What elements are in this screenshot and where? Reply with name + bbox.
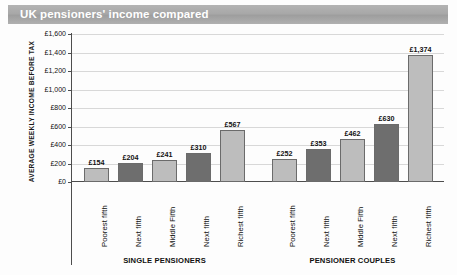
bar <box>374 124 399 182</box>
gridline <box>72 108 444 109</box>
bar-value-label: £630 <box>368 114 405 123</box>
y-axis-tick-label: £200 <box>50 160 66 167</box>
x-axis-category-label: Next fifth <box>134 216 143 247</box>
y-axis-tick-label: £400 <box>50 141 66 148</box>
bar <box>152 160 177 182</box>
x-axis-category-label: Middle Fifth <box>168 207 177 247</box>
bar-value-label: £1,374 <box>402 45 439 54</box>
y-axis-tick-label: £1,400 <box>45 49 66 56</box>
bar <box>306 149 331 182</box>
x-axis-category-label: Richest fifth <box>236 206 245 247</box>
bar-value-label: £462 <box>334 129 371 138</box>
gridline <box>72 34 444 35</box>
gridline <box>72 90 444 91</box>
y-axis-tick-label: £0 <box>58 178 66 185</box>
x-axis-category-label: Richest fifth <box>424 206 433 247</box>
bar-value-label: £204 <box>112 153 149 162</box>
x-axis-category-label: Poorest fifth <box>100 205 109 247</box>
y-axis-tick-label: £600 <box>50 123 66 130</box>
x-axis-category-label: Next fifth <box>390 216 399 247</box>
plot-area: £154£204£241£310£567£252£353£462£630£1,3… <box>72 34 444 182</box>
chart-figure: UK pensioners' income compared AVERAGE W… <box>0 0 457 275</box>
bar <box>272 159 297 182</box>
x-axis-group-label: PENSIONER COUPLES <box>283 256 423 265</box>
bar-value-label: £567 <box>214 120 251 129</box>
bar <box>84 168 109 182</box>
y-axis-title: AVERAGE WEEKLY INCOME BEFORE TAX <box>28 27 35 197</box>
bar <box>220 130 245 182</box>
bar <box>340 139 365 182</box>
bar-value-label: £154 <box>78 158 115 167</box>
bar-value-label: £310 <box>180 143 217 152</box>
bar <box>408 55 433 182</box>
x-axis-category-label: Middle Fifth <box>356 207 365 247</box>
bar <box>186 153 211 182</box>
y-axis-tick-label: £1,200 <box>45 67 66 74</box>
bar-value-label: £241 <box>146 150 183 159</box>
x-axis-category-label: Next fifth <box>202 216 211 247</box>
title-banner: UK pensioners' income compared <box>8 5 448 24</box>
x-axis-category-label: Poorest fifth <box>288 205 297 247</box>
gridline <box>72 53 444 54</box>
x-axis-group-label: SINGLE PENSIONERS <box>95 256 235 265</box>
y-axis-tick-mark <box>68 182 72 183</box>
bar-value-label: £353 <box>300 139 337 148</box>
y-axis-tick-label: £1,000 <box>45 86 66 93</box>
gridline <box>72 71 444 72</box>
bar-value-label: £252 <box>266 149 303 158</box>
y-axis-tick-label: £1,600 <box>45 30 66 37</box>
x-axis-category-label: Next fifth <box>322 216 331 247</box>
y-axis-tick-label: £800 <box>50 104 66 111</box>
bar <box>118 163 143 182</box>
page-title: UK pensioners' income compared <box>20 8 209 20</box>
